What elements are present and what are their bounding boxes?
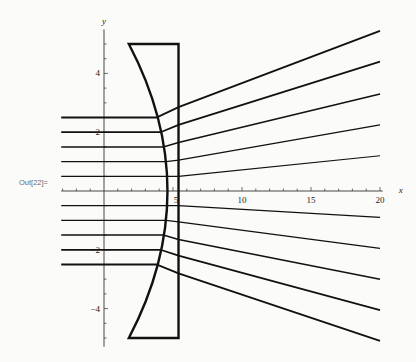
ray-line	[61, 265, 380, 341]
x-tick-label: 5	[174, 195, 179, 205]
rays	[61, 31, 380, 341]
y-tick-label: 2	[96, 127, 101, 137]
ray-line	[61, 206, 380, 218]
ray-line	[61, 62, 380, 133]
axes	[61, 29, 383, 347]
ray-line	[61, 125, 380, 162]
y-tick-label: −4	[90, 304, 100, 314]
x-tick-label: 20	[376, 195, 386, 205]
y-axis-label: y	[101, 16, 106, 26]
y-tick-label: 4	[96, 68, 101, 78]
y-tick-label: −2	[90, 245, 100, 255]
x-axis-label: x	[398, 185, 403, 195]
ray-line	[61, 31, 380, 118]
ray-line	[61, 94, 380, 147]
x-tick-label: 10	[238, 195, 248, 205]
ray-line	[61, 250, 380, 310]
ray-line	[61, 156, 380, 177]
x-tick-label: 15	[307, 195, 317, 205]
ray-diagram-plot: 5101520−4−224xy	[0, 0, 416, 362]
